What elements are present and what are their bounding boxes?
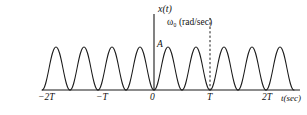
rectified-sine-waveform bbox=[42, 47, 294, 90]
amplitude-label: A bbox=[157, 40, 163, 50]
x-axis-label: t(sec) bbox=[281, 94, 301, 103]
y-axis-label: x(t) bbox=[158, 4, 172, 14]
x-tick-label-minus-T: −T bbox=[96, 93, 108, 103]
rectified-sine-figure: x(t) ω₀ (rad/sec) A −2T −T 0 T 2T t(sec) bbox=[0, 0, 307, 115]
x-tick-label-2T: 2T bbox=[262, 93, 272, 103]
x-tick-label-minus-2T: −2T bbox=[38, 93, 54, 103]
x-tick-label-T: T bbox=[207, 93, 212, 103]
x-tick-label-origin: 0 bbox=[150, 93, 155, 103]
frequency-annotation-label: ω₀ (rad/sec) bbox=[167, 18, 212, 28]
